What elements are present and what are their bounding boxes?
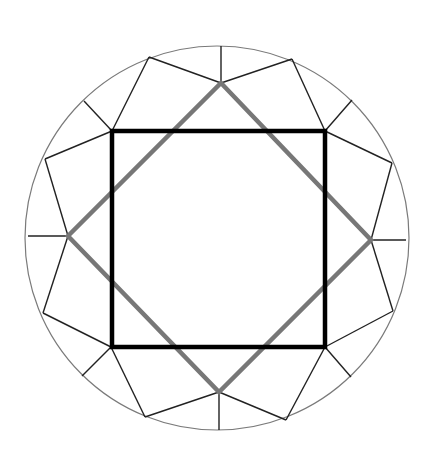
facet-line bbox=[325, 347, 351, 377]
facet-line bbox=[45, 159, 68, 236]
facet-line bbox=[219, 392, 286, 420]
facet-line bbox=[111, 347, 145, 417]
outer-circle bbox=[25, 46, 409, 430]
facet-line bbox=[325, 100, 352, 131]
facet-line bbox=[149, 57, 221, 83]
facet-line bbox=[325, 131, 392, 163]
facet-line bbox=[43, 313, 111, 347]
facet-line bbox=[221, 59, 292, 83]
facet-line bbox=[82, 347, 111, 376]
facet-line bbox=[112, 57, 149, 131]
facet-line bbox=[43, 236, 68, 313]
facet-line bbox=[371, 240, 393, 311]
facet-lines bbox=[28, 46, 406, 430]
facet-diagram bbox=[0, 0, 436, 468]
facet-line bbox=[145, 392, 219, 417]
facet-line bbox=[84, 101, 112, 131]
facet-line bbox=[325, 311, 393, 347]
facet-line bbox=[371, 163, 392, 240]
